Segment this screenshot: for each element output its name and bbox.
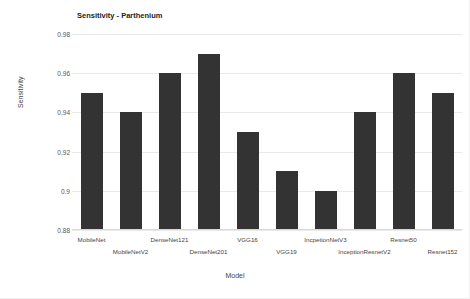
x-tick-label: MobileNetV2 xyxy=(113,248,148,255)
sensitivity-bar-chart: Sensitivity - Parthenium Sensitivity 0.8… xyxy=(0,0,470,299)
y-tick-label: 0.9 xyxy=(61,187,70,194)
y-tick-label: 0.88 xyxy=(57,227,70,234)
chart-title: Sensitivity - Parthenium xyxy=(77,11,162,20)
x-tick-label: Resnet50 xyxy=(390,236,417,243)
gridline xyxy=(72,230,462,231)
bar xyxy=(432,93,454,230)
bars-container xyxy=(72,34,462,230)
x-axis-baseline xyxy=(72,229,462,230)
bar xyxy=(315,191,337,230)
x-tick-label: DenseNet121 xyxy=(151,236,189,243)
x-tick-label: InceptionResnetV2 xyxy=(338,248,390,255)
x-axis-title: Model xyxy=(0,272,470,279)
x-tick-label: VGG19 xyxy=(276,248,297,255)
bar xyxy=(159,73,181,230)
bar xyxy=(120,112,142,230)
bar xyxy=(276,171,298,230)
x-tick-label: Resnet152 xyxy=(428,248,458,255)
y-tick-label: 0.94 xyxy=(57,109,70,116)
bar xyxy=(393,73,415,230)
y-tick-label: 0.92 xyxy=(57,148,70,155)
y-axis-title: Sensitivity xyxy=(17,76,24,108)
y-tick-label: 0.96 xyxy=(57,70,70,77)
x-axis-tick-labels: MobileNetMobileNetV2DenseNet121DenseNet2… xyxy=(72,233,462,265)
bar xyxy=(237,132,259,230)
bar xyxy=(354,112,376,230)
x-tick-label: VGG16 xyxy=(237,236,258,243)
x-tick-label: DenseNet201 xyxy=(190,248,228,255)
y-tick-label: 0.98 xyxy=(57,31,70,38)
bar xyxy=(81,93,103,230)
x-tick-label: IncpetionNetV3 xyxy=(304,236,346,243)
bar xyxy=(198,54,220,230)
y-axis-tick-labels: 0.880.90.920.940.960.98 xyxy=(44,34,70,230)
x-tick-label: MobileNet xyxy=(78,236,106,243)
plot-area xyxy=(72,34,462,230)
